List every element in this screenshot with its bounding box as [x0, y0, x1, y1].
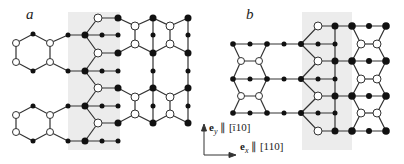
lattice-figure — [0, 0, 404, 164]
ex-direction: ∥ [110] — [251, 140, 283, 152]
panel-a-label: a — [26, 6, 34, 23]
ey-axis-label: ey ∥ [ī10] — [209, 121, 250, 136]
ey-direction: ∥ [ī10] — [220, 121, 250, 133]
panel-b-shaded-region — [302, 12, 352, 150]
ex-axis-label: ex ∥ [110] — [240, 140, 283, 155]
panel-b-label: b — [246, 6, 254, 23]
ey-subscript: y — [214, 127, 218, 136]
ex-subscript: x — [245, 146, 249, 155]
